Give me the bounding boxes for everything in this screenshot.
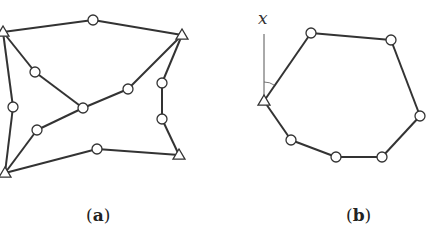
x-axis-label: x xyxy=(258,8,268,28)
member-line xyxy=(83,89,128,108)
diagram-b-nodes xyxy=(258,28,425,162)
member-line xyxy=(35,72,83,108)
joint-circle-icon xyxy=(157,114,167,124)
member-line xyxy=(93,20,182,35)
member-line xyxy=(264,101,291,140)
joint-circle-icon xyxy=(78,103,88,113)
member-line xyxy=(5,149,97,173)
joint-circle-icon xyxy=(92,144,102,154)
joint-circle-icon xyxy=(286,135,296,145)
joint-circle-icon xyxy=(157,78,167,88)
member-line xyxy=(37,108,83,130)
member-line xyxy=(382,116,420,157)
joint-circle-icon xyxy=(377,152,387,162)
member-line xyxy=(391,40,420,116)
angle-arc-icon xyxy=(264,82,274,85)
joint-circle-icon xyxy=(386,35,396,45)
joint-circle-icon xyxy=(88,15,98,25)
diagram-b-reference-axis: x xyxy=(258,8,274,100)
joint-circle-icon xyxy=(306,28,316,38)
member-line xyxy=(162,119,179,155)
member-line xyxy=(128,35,182,89)
joint-circle-icon xyxy=(331,152,341,162)
joint-circle-icon xyxy=(32,125,42,135)
caption-a: (a) xyxy=(86,205,110,225)
caption-b: (b) xyxy=(346,205,371,225)
member-line xyxy=(264,33,311,101)
joint-circle-icon xyxy=(123,84,133,94)
joint-circle-icon xyxy=(30,67,40,77)
member-line xyxy=(162,35,182,83)
member-line xyxy=(3,20,93,32)
member-line xyxy=(291,140,336,157)
diagram-canvas: x (a) (b) xyxy=(0,0,428,237)
member-line xyxy=(311,33,391,40)
member-line xyxy=(97,149,179,155)
joint-circle-icon xyxy=(415,111,425,121)
joint-circle-icon xyxy=(8,102,18,112)
